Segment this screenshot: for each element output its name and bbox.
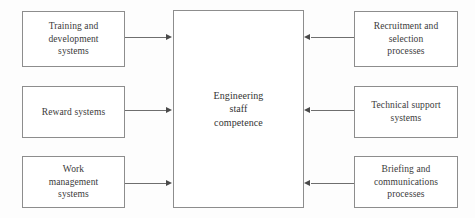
node-work-management-systems[interactable]: Work management systems [22,156,125,208]
node-engineering-staff-competence[interactable]: Engineering staff competence [173,10,304,208]
node-briefing-and-communications-processes[interactable]: Briefing and communications processes [354,156,458,208]
node-technical-support-systems[interactable]: Technical support systems [354,86,458,138]
arrow-right-icon [166,34,172,40]
node-recruitment-and-selection-processes[interactable]: Recruitment and selection processes [354,11,458,67]
connector-briefing-to-center [311,183,354,184]
connector-reward-to-center [125,110,167,111]
arrow-left-icon [304,180,310,186]
connector-work-management-to-center [125,183,167,184]
connector-recruitment-to-center [311,37,354,38]
arrow-right-icon [166,107,172,113]
arrow-left-icon [304,34,310,40]
arrow-left-icon [304,107,310,113]
node-training-and-development-systems[interactable]: Training and development systems [22,11,125,67]
arrow-right-icon [166,180,172,186]
diagram-canvas: Training and development systems Reward … [0,0,475,218]
connector-technical-support-to-center [311,110,354,111]
connector-training-to-center [125,37,167,38]
node-reward-systems[interactable]: Reward systems [22,86,125,138]
